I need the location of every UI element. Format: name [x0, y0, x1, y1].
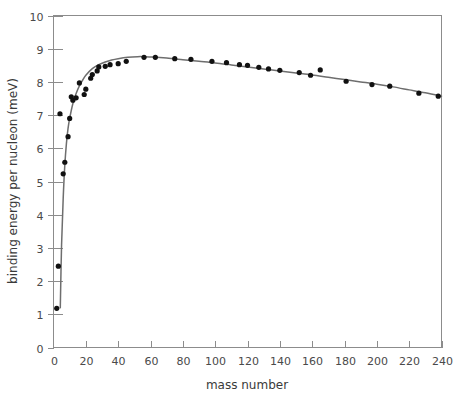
data-point [209, 59, 214, 64]
y-tick-label: 9 [37, 44, 44, 57]
data-point [436, 94, 441, 99]
x-tick-label: 140 [270, 355, 291, 368]
x-tick-label: 220 [399, 355, 420, 368]
data-point [237, 62, 242, 67]
data-point [387, 84, 392, 89]
data-point [61, 171, 66, 176]
data-point [62, 160, 67, 165]
data-point [107, 62, 112, 67]
data-point [256, 65, 261, 70]
x-tick-label: 240 [432, 355, 453, 368]
data-point [57, 111, 62, 116]
data-point [56, 264, 61, 269]
y-tick-label: 0 [37, 343, 44, 356]
data-point [65, 134, 70, 139]
y-tick-label: 2 [37, 276, 44, 289]
x-tick-label: 20 [80, 355, 94, 368]
data-point [90, 72, 95, 77]
x-tick-label: 60 [145, 355, 159, 368]
data-point [116, 61, 121, 66]
y-tick-label: 5 [37, 177, 44, 190]
y-axis-title: binding energy per nucleon (meV) [6, 78, 20, 284]
data-point [124, 59, 129, 64]
y-tick-label: 3 [37, 243, 44, 256]
data-point [224, 60, 229, 65]
x-tick-label: 160 [302, 355, 323, 368]
x-tick-label: 200 [367, 355, 388, 368]
binding-energy-chart: 012345678910 020406080100120140160180200… [0, 0, 455, 396]
chart-container: 012345678910 020406080100120140160180200… [0, 0, 455, 396]
data-points-group [54, 55, 441, 311]
data-point [172, 56, 177, 61]
data-point [416, 91, 421, 96]
data-point [297, 70, 302, 75]
x-tick-label: 180 [335, 355, 356, 368]
y-tick-label: 6 [37, 143, 44, 156]
x-tick-label: 40 [112, 355, 126, 368]
data-point [153, 55, 158, 60]
data-point [74, 95, 79, 100]
x-tick-label: 0 [51, 355, 58, 368]
binding-energy-curve [60, 57, 441, 308]
data-point [308, 73, 313, 78]
y-tick-label: 1 [37, 309, 44, 322]
data-point [83, 87, 88, 92]
data-point [188, 57, 193, 62]
data-point [77, 80, 82, 85]
y-tick-label: 8 [37, 77, 44, 90]
y-axis-ticks: 012345678910 [30, 11, 63, 356]
x-axis-title: mass number [206, 378, 288, 392]
x-tick-label: 100 [205, 355, 226, 368]
data-point [54, 306, 59, 311]
data-point [103, 64, 108, 69]
data-point [245, 63, 250, 68]
data-point [141, 55, 146, 60]
data-point [67, 116, 72, 121]
x-axis-ticks: 020406080100120140160180200220240 [51, 341, 453, 368]
data-point [82, 92, 87, 97]
x-tick-label: 120 [238, 355, 259, 368]
fit-curve-group [60, 57, 441, 308]
y-tick-label: 10 [30, 11, 44, 24]
data-point [96, 64, 101, 69]
x-tick-label: 80 [177, 355, 191, 368]
data-point [266, 66, 271, 71]
data-point [344, 79, 349, 84]
data-point [369, 82, 374, 87]
data-point [318, 67, 323, 72]
y-tick-label: 7 [37, 110, 44, 123]
data-point [277, 68, 282, 73]
y-tick-label: 4 [37, 210, 44, 223]
